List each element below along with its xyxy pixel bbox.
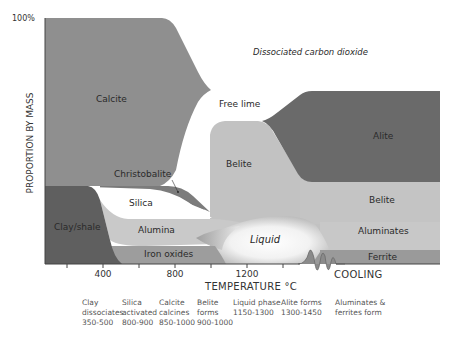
label-liquid: Liquid [250, 235, 280, 245]
label-alite: Alite [373, 132, 393, 141]
label-free-lime: Free lime [219, 100, 260, 109]
label-ferrite: Ferrite [368, 253, 397, 262]
stage-calcite: Calcite calcines 850-1000 [159, 298, 195, 328]
x-axis-title: TEMPERATURE °C [205, 281, 297, 292]
label-calcite: Calcite [96, 95, 127, 104]
label-alumina: Alumina [138, 226, 175, 235]
label-aluminates: Aluminates [358, 227, 409, 236]
stage-alite: Alite forms 1300-1450 [281, 298, 322, 318]
label-dissociated-co2: Dissociated carbon dioxide [253, 48, 368, 57]
stage-belite: Belite forms 900-1000 [197, 298, 233, 328]
x-tick-800: 800 [166, 269, 183, 279]
label-belite-mid: Belite [226, 160, 252, 169]
cooling-label: COOLING [334, 269, 383, 280]
label-clay-shale: Clay/shale [54, 223, 101, 232]
stage-clay: Clay dissociates 350-500 [82, 298, 124, 328]
label-christobalite: Christobalite [114, 170, 171, 179]
y-axis-top-label: 100% [12, 14, 35, 23]
x-axis-ticks [67, 264, 283, 268]
x-tick-1200: 1200 [236, 269, 259, 279]
stage-silica: Silica activated 800-900 [122, 298, 157, 328]
calcite-region [45, 18, 211, 186]
stage-aluminates-ferrites: Aluminates & ferrites form [335, 298, 385, 318]
y-axis-title: PROPORTION BY MASS [25, 83, 35, 203]
label-belite-right: Belite [369, 196, 395, 205]
x-tick-400: 400 [94, 269, 111, 279]
label-iron-oxides: Iron oxides [144, 250, 193, 259]
stage-liquid: Liquid phase 1150-1300 [233, 298, 281, 318]
label-silica: Silica [129, 199, 153, 208]
